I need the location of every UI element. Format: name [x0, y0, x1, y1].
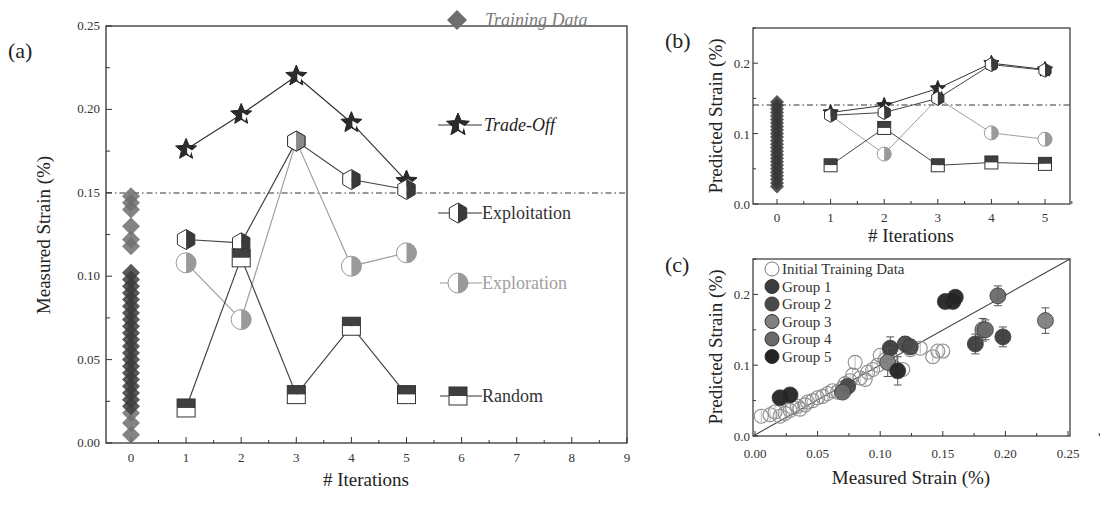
x-tick-label: 9	[624, 450, 631, 465]
legend-random-label: Random	[482, 386, 543, 406]
panel-b-training-data	[770, 95, 784, 193]
legend-item-group-1: Group 1	[765, 279, 832, 295]
legend-item-group-3: Group 3	[765, 314, 832, 330]
legend-item-group-4: Group 4	[765, 331, 832, 347]
panel-a-series	[176, 65, 417, 417]
open-circle-icon	[765, 262, 779, 276]
series-line-exploitation	[186, 141, 406, 243]
half-circle-marker	[341, 256, 361, 276]
legend-label: Group 3	[782, 314, 832, 330]
x-tick-label: 1	[827, 210, 834, 225]
y-tick-label: 0.10	[77, 268, 100, 283]
panel-a-y-axis: 0.000.050.100.150.200.25	[77, 18, 112, 450]
panel-c-y-title: Predicted Strain (%)	[705, 269, 727, 424]
half-square-marker	[177, 399, 195, 417]
x-tick-label: 4	[988, 210, 995, 225]
star-marker	[176, 138, 197, 158]
x-tick-label: 8	[569, 450, 576, 465]
half-square-marker	[985, 156, 998, 169]
panel-b-x-title: # Iterations	[868, 225, 954, 246]
legend-training-data: Training Data	[447, 10, 588, 30]
half-square-marker	[449, 387, 467, 405]
y-tick-label: 0.20	[77, 101, 100, 116]
half-hexagon-marker	[985, 58, 997, 72]
half-circle-marker	[1038, 132, 1052, 146]
panel-a: (a) 0.000.050.100.150.200.25 0123456789 …	[8, 10, 630, 490]
half-circle-marker	[984, 126, 998, 140]
panel-b-label: (b)	[665, 28, 691, 53]
half-hexagon-marker	[343, 169, 360, 189]
filled-circle-marker	[902, 339, 918, 355]
y-tick-label: 0.1	[734, 358, 750, 373]
filled-circle-icon	[765, 280, 779, 294]
y-tick-label: 0.2	[734, 287, 750, 302]
series-line-trade-off	[186, 76, 406, 181]
star-marker	[231, 103, 252, 123]
legend-exploration-label: Exploration	[482, 273, 567, 293]
series-line-exploration	[186, 141, 406, 320]
half-circle-marker	[448, 273, 468, 293]
legend-item-group-5: Group 5	[765, 349, 832, 365]
filled-circle-marker	[890, 363, 906, 379]
panel-a-label: (a)	[8, 38, 32, 63]
panel-c-x-title: Measured Strain (%)	[832, 467, 990, 489]
filled-circle-marker	[967, 336, 983, 352]
x-tick-label: 2	[238, 450, 245, 465]
diamond-icon	[447, 10, 467, 30]
half-hexagon-marker	[449, 203, 466, 223]
legend-tradeoff: Trade-Off	[438, 113, 558, 135]
legend-label: Group 4	[782, 331, 832, 347]
filled-circle-marker	[947, 289, 963, 305]
legend-exploration: Exploration	[440, 273, 567, 293]
legend-random: Random	[440, 386, 543, 406]
y-tick-label: 0.0	[734, 197, 750, 212]
legend-label: Group 1	[782, 279, 832, 295]
panel-a-legend: Training Data Trade-Off Exploitation Exp…	[438, 10, 588, 406]
x-tick-label: 0	[774, 210, 781, 225]
star-marker	[341, 112, 362, 132]
half-square-marker	[1039, 157, 1052, 170]
panel-c: (c) 0.00.10.2 0.000.050.100.150.200.25 I…	[665, 252, 1099, 489]
x-tick-label: 3	[293, 450, 300, 465]
x-tick-label: 0.00	[744, 446, 767, 461]
x-tick-label: 0.15	[931, 446, 954, 461]
legend-exploitation: Exploitation	[438, 203, 571, 223]
half-hexagon-marker	[932, 91, 944, 105]
filled-circle-icon	[765, 332, 779, 346]
half-hexagon-marker	[1039, 63, 1051, 77]
legend-label: Group 2	[782, 296, 832, 312]
x-tick-label: 3	[935, 210, 942, 225]
filled-circle-icon	[765, 297, 779, 311]
star-marker	[447, 113, 470, 135]
panel-a-x-title: # Iterations	[323, 469, 409, 490]
x-tick-label: 0.20	[994, 446, 1017, 461]
legend-label: Group 5	[782, 349, 832, 365]
y-tick-label: 0.0	[734, 429, 750, 444]
filled-circle-icon	[765, 350, 779, 364]
y-tick-label: 0.00	[77, 435, 100, 450]
star-icon	[447, 113, 470, 135]
legend-tradeoff-label: Trade-Off	[484, 115, 558, 135]
x-tick-label: 0	[128, 450, 135, 465]
y-tick-label: 0.15	[77, 185, 100, 200]
legend-training-label: Training Data	[485, 10, 588, 30]
filled-circle-icon	[765, 315, 779, 329]
legend-item-group-2: Group 2	[765, 296, 832, 312]
half-square-icon	[449, 387, 467, 405]
filled-circle-marker	[835, 384, 851, 400]
panel-b: (b) 0.00.10.2 012345 # Iterations Predic…	[665, 28, 1072, 246]
half-square-marker	[931, 159, 944, 172]
panel-b-y-title: Predicted Strain (%)	[705, 38, 727, 193]
y-tick-label: 0.25	[77, 18, 100, 33]
half-square-marker	[878, 121, 891, 134]
legend-label: Initial Training Data	[782, 261, 905, 277]
filled-circle-marker	[977, 322, 993, 338]
half-circle-marker	[176, 253, 196, 273]
filled-circle-marker	[995, 329, 1011, 345]
half-square-marker	[824, 159, 837, 172]
half-square-marker	[287, 386, 305, 404]
x-tick-label: 2	[881, 210, 888, 225]
y-tick-label: 0.1	[734, 127, 750, 142]
panel-b-series	[823, 55, 1053, 172]
y-tick-label: 0.05	[77, 352, 100, 367]
